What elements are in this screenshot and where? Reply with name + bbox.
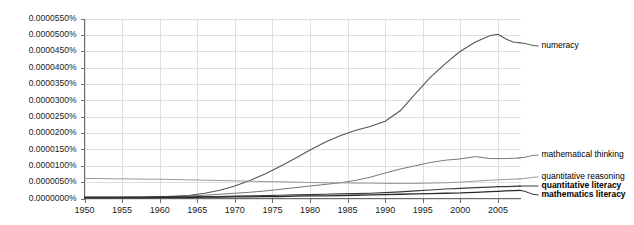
- series-leader-line: [519, 43, 539, 46]
- series-leader-line: [519, 155, 539, 158]
- series-labels-group: numeracymathematical thinkingquantitativ…: [542, 40, 626, 199]
- tickmarks-group: [81, 20, 499, 203]
- y-axis-tick-label: 0.0000350%: [29, 78, 77, 88]
- y-axis-tick-label: 0.0000500%: [29, 29, 77, 39]
- ngram-plot-svg: 0.0000550%0.0000500%0.0000450%0.0000400%…: [0, 0, 634, 225]
- series-line-mathematical-thinking[interactable]: [85, 157, 521, 198]
- x-axis-tick-label: 1975: [262, 205, 282, 215]
- y-axis-tick-label: 0.0000150%: [29, 144, 77, 154]
- series-label-numeracy[interactable]: numeracy: [542, 40, 580, 50]
- series-leader-line: [519, 190, 539, 195]
- x-axis-tick-label: 1965: [187, 205, 207, 215]
- x-axis-tick-label: 2005: [488, 205, 508, 215]
- ngram-chart: 0.0000550%0.0000500%0.0000450%0.0000400%…: [0, 0, 634, 225]
- y-axis-tick-label: 0.0000000%: [29, 193, 77, 203]
- gridlines-group: [85, 19, 521, 200]
- x-axis-tick-label: 1970: [225, 205, 245, 215]
- x-axis-tick-label: 1955: [112, 205, 132, 215]
- y-axis-tick-label: 0.0000050%: [29, 176, 77, 186]
- y-axis-tick-label: 0.0000450%: [29, 45, 77, 55]
- series-leader-line: [519, 177, 539, 179]
- x-axis-tick-label: 1950: [74, 205, 94, 215]
- series-label-mathematical-thinking[interactable]: mathematical thinking: [542, 149, 624, 159]
- x-axis-tick-label: 1990: [375, 205, 395, 215]
- y-axis-tick-label: 0.0000200%: [29, 127, 77, 137]
- y-axis-tick-label: 0.0000100%: [29, 160, 77, 170]
- x-axis-tick-label: 1995: [413, 205, 433, 215]
- x-axis-tick-label: 1960: [150, 205, 170, 215]
- series-leader-lines-group: [519, 43, 539, 195]
- data-lines-group: [85, 34, 521, 198]
- axes-group: [85, 19, 521, 199]
- series-line-numeracy[interactable]: [85, 34, 521, 198]
- x-axis-tick-label: 1985: [338, 205, 358, 215]
- y-axis-labels-group: 0.0000550%0.0000500%0.0000450%0.0000400%…: [29, 13, 77, 203]
- x-axis-tick-label: 1980: [300, 205, 320, 215]
- series-label-mathematics-literacy[interactable]: mathematics literacy: [542, 189, 626, 199]
- y-axis-tick-label: 0.0000400%: [29, 62, 77, 72]
- y-axis-tick-label: 0.0000550%: [29, 13, 77, 23]
- x-axis-labels-group: 1950195519601965197019751980198519901995…: [74, 205, 507, 215]
- y-axis-tick-label: 0.0000300%: [29, 95, 77, 105]
- x-axis-tick-label: 2000: [450, 205, 470, 215]
- y-axis-tick-label: 0.0000250%: [29, 111, 77, 121]
